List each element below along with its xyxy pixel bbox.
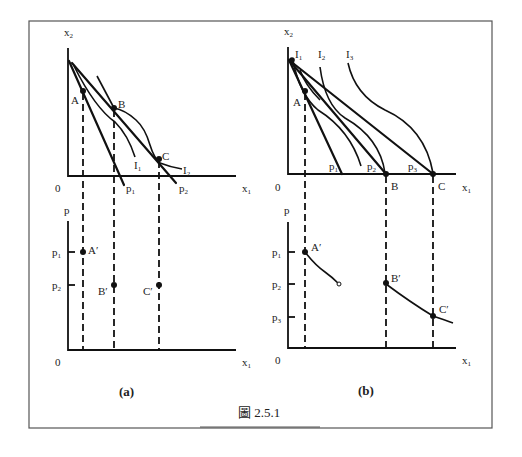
label-i2: I2 [183,164,191,178]
label-i1: I1 [295,48,303,62]
figure-2-5-1: x2 0 x1 A B C I1 I2 p1 p2 p 0 x1 p1 p2 [0,0,522,457]
tick-label-p3: p3 [272,311,282,325]
label-p1: p1 [126,182,136,196]
label-a-prime: A′ [88,244,98,256]
origin-label: 0 [275,354,281,366]
panel-a-top-graph: x2 0 x1 A B C I1 I2 p1 p2 [55,26,252,196]
point-b-prime [111,282,117,288]
tick-label-p1: p1 [272,246,282,260]
label-b-prime: B′ [391,272,401,284]
label-a: A [71,94,79,106]
y-axis-label: p [284,204,290,216]
demand-curve-segment-1 [305,252,339,284]
x-axis-label: x1 [462,181,472,195]
x-axis-label: x1 [242,182,252,196]
budget-line-p2 [72,63,176,183]
origin-label: 0 [275,181,281,193]
indifference-curve-i2 [320,67,385,173]
figure-caption: 圖 2.5.1 [238,405,280,420]
origin-label: 0 [55,182,61,194]
point-a-prime [302,249,308,255]
indifference-curve-i2 [114,108,182,169]
label-b-prime: B′ [98,285,108,297]
tick-label-p2: p2 [52,279,62,293]
point-c-prime [156,282,162,288]
x-axis-label: x1 [242,356,252,370]
label-a-prime: A′ [311,241,321,253]
y-axis-label: x2 [64,26,74,40]
label-p2: p2 [179,182,189,196]
label-i1: I1 [134,159,142,173]
label-i2: I2 [318,48,326,62]
panel-b-label: (b) [358,383,374,398]
label-b: B [118,98,125,110]
point-a-prime [80,249,86,255]
y-axis-label: p [64,204,70,216]
y-axis-label: x2 [284,25,294,39]
point-b-prime [383,280,389,286]
budget-line-p3 [289,60,433,174]
label-c-prime: C′ [143,285,153,297]
label-c: C [438,180,445,192]
label-b: B [391,180,398,192]
open-endpoint [337,282,341,286]
point-c-prime [430,313,436,319]
tick-label-p1: p1 [52,246,62,260]
point-intercept [289,57,295,63]
origin-label: 0 [55,356,61,368]
label-i3: I3 [346,48,354,62]
panel-a-bottom-graph: p 0 x1 p1 p2 A′ B′ C′ [52,204,252,370]
x-axis-label: x1 [462,354,472,368]
label-a: A [293,96,301,108]
figure-frame [29,21,492,428]
panel-b-bottom-graph: p 0 x1 p1 p2 p3 A′ B′ C′ [272,204,472,368]
tick-label-p2: p2 [272,278,282,292]
label-p3: p3 [408,160,418,174]
panel-a-label: (a) [119,384,134,399]
label-c-prime: C′ [439,303,449,315]
label-c: C [162,150,169,162]
